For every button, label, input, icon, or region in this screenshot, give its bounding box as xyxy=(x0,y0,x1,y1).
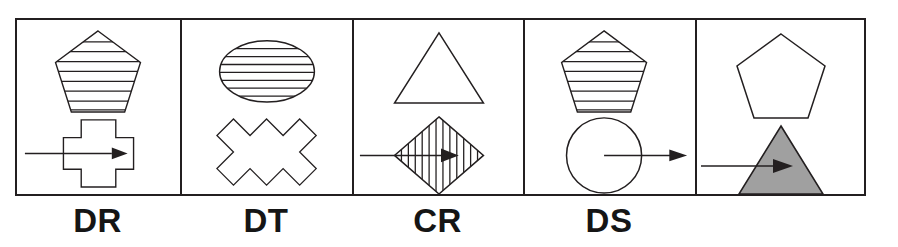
panel-dt[interactable] xyxy=(182,20,354,194)
triangle-filled xyxy=(739,126,823,194)
panel-cr[interactable] xyxy=(354,20,525,194)
panel-ds[interactable] xyxy=(525,20,697,194)
panel-ds-canvas xyxy=(525,20,695,194)
gray-triangle-shape xyxy=(739,126,823,194)
label-row: DR DT CR DS xyxy=(15,198,866,243)
panel-label-dt: DT xyxy=(180,198,352,243)
panel-dr[interactable] xyxy=(17,20,182,194)
striped-pentagon-shape xyxy=(47,31,151,112)
panel-label-dr: DR xyxy=(15,198,180,243)
pentagon-outline xyxy=(737,34,825,118)
panel-dr-canvas xyxy=(17,20,180,194)
triangle-outline xyxy=(395,33,484,103)
x-cross-shape xyxy=(217,119,316,185)
panel-dt-canvas xyxy=(182,20,352,194)
panel-label-ds: DS xyxy=(523,198,695,243)
ellipse-outline xyxy=(220,41,315,102)
figure-root: DR DT CR DS xyxy=(0,0,898,247)
x-cross-outline xyxy=(217,119,316,185)
panel-unlabeled-canvas xyxy=(697,20,864,194)
panel-unlabeled[interactable] xyxy=(697,20,864,194)
panel-label-unlabeled xyxy=(695,198,862,243)
striped-diamond-shape xyxy=(395,112,484,194)
pentagon-shape xyxy=(737,34,825,118)
striped-pentagon-shape xyxy=(553,31,657,112)
triangle-shape xyxy=(395,33,484,103)
panel-label-cr: CR xyxy=(352,198,523,243)
panel-strip xyxy=(15,18,866,196)
striped-ellipse-shape xyxy=(216,41,321,102)
panel-cr-canvas xyxy=(354,20,523,194)
